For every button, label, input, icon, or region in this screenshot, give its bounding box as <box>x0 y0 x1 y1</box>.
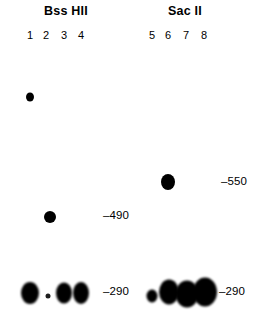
gel-autoradiograph-figure: Bss HII Sac II 1 2 3 4 5 6 7 8 –550 –490… <box>0 0 261 319</box>
size-marker-490: –490 <box>103 209 129 221</box>
band-lane1-290 <box>21 282 39 304</box>
band-lane8-290 <box>193 278 217 307</box>
lane-number-6: 6 <box>162 29 174 41</box>
band-lane2-490 <box>44 211 56 223</box>
enzyme-label-sac2: Sac II <box>152 4 218 18</box>
lane-number-3: 3 <box>58 29 70 41</box>
band-lane5-290 <box>147 290 158 303</box>
band-lane1-upper <box>26 93 34 102</box>
lane-number-5: 5 <box>146 29 158 41</box>
band-lane3-290 <box>56 283 72 304</box>
enzyme-label-bssh2: Bss HII <box>33 4 99 18</box>
size-marker-550: –550 <box>221 175 247 187</box>
lane-number-1: 1 <box>24 29 36 41</box>
lane-number-8: 8 <box>198 29 210 41</box>
band-lane6-550 <box>161 174 175 190</box>
lane-number-7: 7 <box>180 29 192 41</box>
size-marker-290-left: –290 <box>103 285 129 297</box>
lane-number-2: 2 <box>40 29 52 41</box>
band-lane2-290 <box>46 294 51 299</box>
band-lane4-290 <box>73 282 89 304</box>
lane-number-4: 4 <box>75 29 87 41</box>
size-marker-290-right: –290 <box>219 285 245 297</box>
